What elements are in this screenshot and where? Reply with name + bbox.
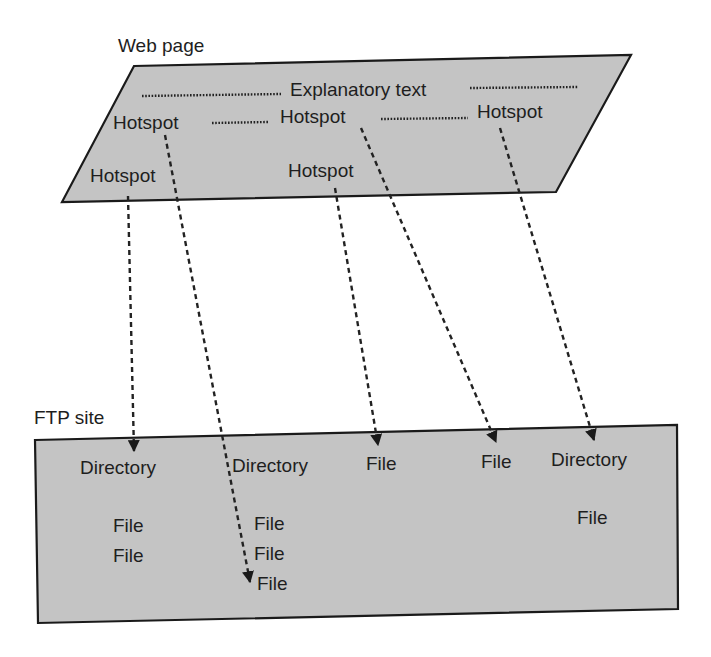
web-page-title: Web page xyxy=(118,35,204,56)
diagram-canvas: Web page Explanatory text Hotspot Hotspo… xyxy=(0,0,711,657)
directory-3-file[interactable]: File xyxy=(577,507,608,528)
directory-2-file[interactable]: File xyxy=(257,573,288,594)
explanatory-text: Explanatory text xyxy=(290,79,427,100)
hotspot-top-left[interactable]: Hotspot xyxy=(113,112,179,133)
ftp-site: FTP site Directory File File Directory F… xyxy=(34,407,678,623)
directory-1-file[interactable]: File xyxy=(113,515,144,536)
directory-3[interactable]: Directory xyxy=(551,449,628,470)
web-page: Web page Explanatory text Hotspot Hotspo… xyxy=(62,35,631,202)
file-a[interactable]: File xyxy=(366,453,397,474)
link-arrow xyxy=(335,188,378,445)
hotspot-bottom-middle[interactable]: Hotspot xyxy=(288,160,354,181)
ftp-site-title: FTP site xyxy=(34,407,104,428)
directory-1[interactable]: Directory xyxy=(80,457,157,478)
hotspot-top-middle[interactable]: Hotspot xyxy=(280,106,346,127)
directory-2[interactable]: Directory xyxy=(232,455,309,476)
diagram: Web page Explanatory text Hotspot Hotspo… xyxy=(0,0,711,657)
directory-2-file[interactable]: File xyxy=(254,543,285,564)
hotspot-top-right[interactable]: Hotspot xyxy=(477,101,543,122)
directory-1-file[interactable]: File xyxy=(113,545,144,566)
link-arrow xyxy=(128,196,134,451)
hotspot-bottom-left[interactable]: Hotspot xyxy=(90,165,156,186)
directory-2-file[interactable]: File xyxy=(254,513,285,534)
file-b[interactable]: File xyxy=(481,451,512,472)
